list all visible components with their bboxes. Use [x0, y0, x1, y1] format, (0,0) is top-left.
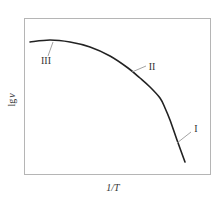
annotation-leader [177, 132, 191, 143]
annotation-label: I [194, 123, 197, 134]
data-curve [30, 40, 185, 162]
annotation-label: III [41, 55, 51, 66]
annotation-leader [48, 42, 53, 56]
plot-frame [25, 19, 211, 175]
x-axis-label: 1/T [106, 182, 121, 193]
chart: IIIIII 1/T lgv [0, 0, 223, 200]
annotation-leader [132, 66, 146, 72]
y-axis-label: lgv [6, 93, 17, 107]
svg-text:lgv: lgv [6, 93, 17, 107]
annotations: IIIIII [41, 42, 198, 143]
annotation-label: II [149, 61, 156, 72]
